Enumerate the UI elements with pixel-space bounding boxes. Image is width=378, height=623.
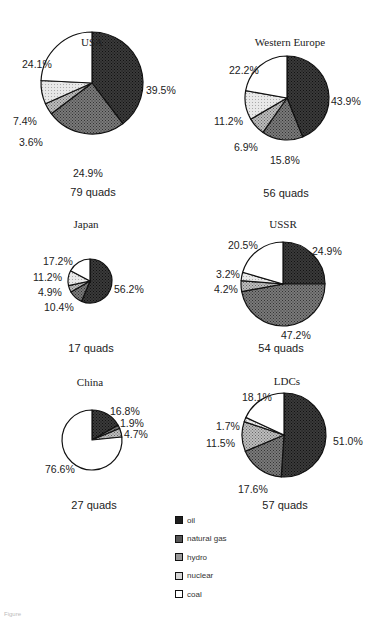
label-ussr-hydro: 4.2%: [214, 283, 238, 295]
swatch-coal-icon: [175, 590, 183, 598]
legend-item-coal: coal: [175, 585, 227, 604]
slice-coal: [246, 56, 287, 98]
quads-china: 27 quads: [71, 499, 116, 511]
label-usa-hydro: 3.6%: [19, 136, 43, 148]
label-usa-coal: 24.1%: [22, 58, 52, 70]
label-japan-gas: 10.4%: [44, 301, 74, 313]
legend-item-natural-gas: natural gas: [175, 530, 227, 549]
legend-label-oil: oil: [187, 516, 195, 525]
label-ldcs-gas: 17.6%: [238, 483, 268, 495]
quads-western-europe: 56 quads: [263, 187, 308, 199]
label-japan-nuclear: 11.2%: [33, 271, 62, 283]
label-weu-gas: 15.8%: [270, 154, 300, 166]
label-ldcs-oil: 51.0%: [333, 435, 363, 447]
quads-ldcs: 57 quads: [262, 499, 307, 511]
label-usa-oil: 39.5%: [146, 84, 176, 96]
label-weu-oil: 43.9%: [331, 95, 361, 107]
label-japan-oil: 56.2%: [114, 283, 144, 295]
legend-item-nuclear: nuclear: [175, 567, 227, 586]
chart-title-western-europe: Western Europe: [255, 36, 325, 48]
label-china-coal: 76.6%: [45, 463, 75, 475]
label-ldcs-nuclear: 1.7%: [216, 420, 240, 432]
swatch-oil-icon: [175, 516, 183, 524]
legend-label-natural-gas: natural gas: [187, 534, 227, 543]
swatch-hydro-icon: [175, 553, 183, 561]
chart-title-usa: USA: [81, 36, 103, 48]
label-ussr-nuclear: 3.2%: [216, 268, 240, 280]
label-usa-nuclear: 7.4%: [13, 115, 37, 127]
label-china-oil: 16.8%: [110, 405, 140, 417]
swatch-natural-gas-icon: [175, 535, 183, 543]
legend-label-hydro: hydro: [187, 553, 207, 562]
chart-title-ussr: USSR: [269, 218, 297, 230]
chart-legend: oil natural gas hydro nuclear coal: [175, 511, 227, 604]
legend-label-nuclear: nuclear: [187, 571, 213, 580]
label-weu-nuclear: 11.2%: [214, 115, 243, 127]
quads-usa: 79 quads: [70, 186, 115, 198]
chart-title-china: China: [77, 376, 103, 388]
label-ussr-oil: 24.9%: [312, 245, 342, 257]
label-weu-coal: 22.2%: [229, 64, 259, 76]
pie-china: [62, 410, 122, 470]
pie-japan: [68, 259, 112, 303]
label-ldcs-coal: 18.1%: [242, 391, 272, 403]
quads-ussr: 54 quads: [258, 342, 303, 354]
slice-natural-gas: [242, 284, 325, 326]
swatch-nuclear-icon: [175, 572, 183, 580]
legend-label-coal: coal: [187, 590, 202, 599]
label-japan-coal: 17.2%: [43, 255, 73, 267]
chart-title-japan: Japan: [73, 218, 98, 230]
quads-japan: 17 quads: [68, 342, 113, 354]
chart-title-ldcs: LDCs: [274, 375, 300, 387]
label-weu-hydro: 6.9%: [234, 141, 258, 153]
legend-item-hydro: hydro: [175, 548, 227, 567]
label-china-hydro: 4.7%: [124, 428, 148, 440]
legend-item-oil: oil: [175, 511, 227, 530]
label-japan-hydro: 4.9%: [38, 286, 62, 298]
label-ussr-coal: 20.5%: [228, 239, 258, 251]
pie-ldcs: [242, 393, 326, 477]
label-ldcs-hydro: 11.5%: [206, 437, 235, 449]
figure-caption: Figure: [4, 611, 21, 617]
label-ussr-gas: 47.2%: [281, 329, 311, 341]
slice-oil: [281, 393, 326, 477]
label-usa-gas: 24.9%: [73, 167, 103, 179]
